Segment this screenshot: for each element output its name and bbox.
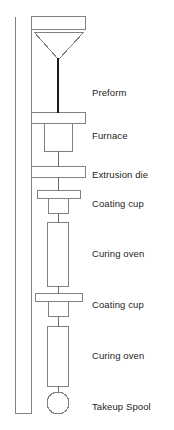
label-takeup-spool: Takeup Spool <box>92 401 151 412</box>
top-plate <box>32 17 86 30</box>
fiber-draw-tower-figure: Preform Furnace Extrusion die Coating cu… <box>0 0 174 430</box>
coating-cup-1-plate <box>38 191 81 199</box>
tower-schematic <box>0 0 174 430</box>
label-curing-oven-1: Curing oven <box>92 248 144 259</box>
coating-cup-2-plate <box>36 294 83 302</box>
label-coating-cup-2: Coating cup <box>92 299 144 310</box>
label-preform: Preform <box>92 87 126 98</box>
furnace-body <box>45 124 73 152</box>
coating-cup-2-body <box>49 302 69 317</box>
curing-oven-2-tube <box>48 327 69 387</box>
label-extrusion-die: Extrusion die <box>92 169 148 180</box>
label-curing-oven-2: Curing oven <box>92 350 144 361</box>
coating-cup-1-body <box>49 199 69 214</box>
extrusion-die-plate <box>32 167 86 178</box>
tower-frame <box>16 17 32 414</box>
label-furnace: Furnace <box>92 130 128 141</box>
curing-oven-1-tube <box>48 223 69 287</box>
preform-cone <box>35 33 84 60</box>
furnace-plate <box>32 113 86 124</box>
label-coating-cup-1: Coating cup <box>92 198 144 209</box>
takeup-spool <box>47 392 69 414</box>
